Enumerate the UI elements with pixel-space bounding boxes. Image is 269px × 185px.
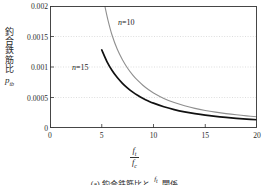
x-axis-label-numerator: ft [130,146,139,157]
x-tick-label-2: 10 [142,131,166,140]
figure-balanced-reinforcement-ratio: 釣 合 鉄 筋 比 ptb 00.00050.0010.00150.002 n=… [0,0,269,185]
series-label-n10: n=10 [118,18,135,27]
x-axis-label-fraction: ft fc [130,146,139,170]
x-axis-label-denominator: fc [130,157,139,169]
x-tick-label-0: 0 [38,131,62,140]
gridlines [50,6,257,98]
x-axis-label: ft fc [0,146,269,170]
caption-prefix: (a) [91,180,100,185]
caption-fraction: ft fc [152,176,161,185]
series-label-n15: n=15 [72,63,89,72]
x-tick-label-4: 20 [245,131,269,140]
curve-n15 [102,50,257,120]
x-tick-label-1: 5 [90,131,114,140]
x-tick-label-3: 15 [193,131,217,140]
y-tick-label-2: 0.001 [14,63,48,72]
y-tick-label-4: 0.002 [14,2,48,11]
x-axis-tick-labels: 05101520 [0,131,269,145]
y-tick-label-1: 0.0005 [14,93,48,102]
y-tick-label-3: 0.0015 [14,32,48,41]
figure-caption: (a) 釣合鉄筋比と ft fc 関係 [0,176,269,185]
caption-text: 釣合鉄筋比と [102,180,150,185]
caption-fraction-numerator: ft [152,176,161,185]
plot-area: n=10 n=15 [50,6,257,128]
caption-suffix: 関係 [162,180,178,185]
